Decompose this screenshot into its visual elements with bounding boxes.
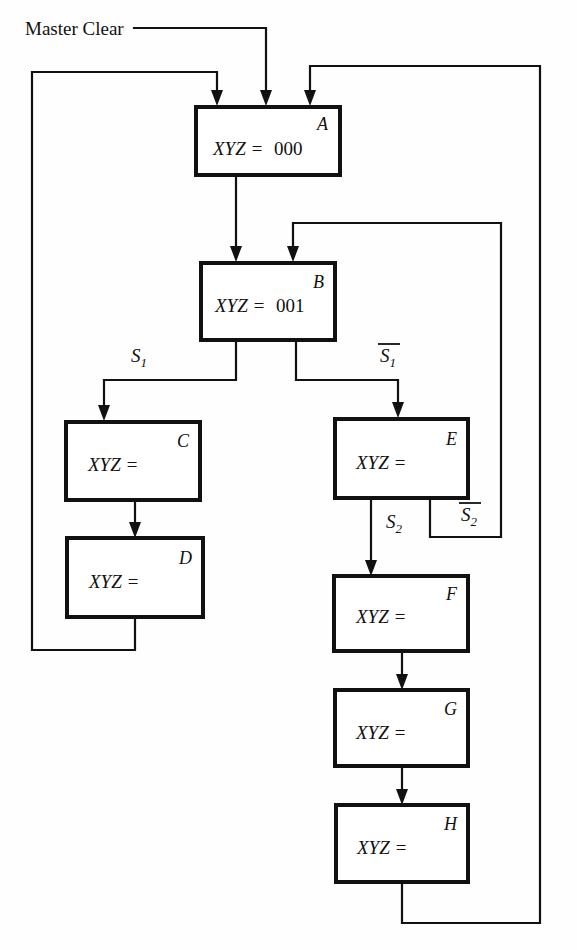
state-box-E-letter: E [445,429,457,449]
state-box-A-expr: XYZ = 000 [212,138,303,159]
arrowhead-e-to-f [365,560,377,576]
state-box-B-expr: XYZ = 001 [214,295,305,316]
state-box-D-expr: XYZ = [88,571,139,592]
state-box-F-expr: XYZ = [355,606,406,627]
signal-S2bar-base: S [461,504,471,525]
state-box-C-expr: XYZ = [87,454,138,475]
arrowhead-b-to-c [98,405,110,421]
arrowhead-a-to-b [230,246,242,262]
state-box-E-lhs: XYZ = [355,452,406,473]
signal-label-S2-text: S2 [386,511,403,536]
master-clear-label: Master Clear [25,18,124,39]
state-box-A-letter: A [316,114,329,134]
arrowhead-s2bar-feedback-to-b [287,246,299,262]
state-box-A-rhs: 000 [274,138,303,159]
state-box-B[interactable]: B XYZ = 001 [201,263,335,340]
signal-S2bar-sub: 2 [471,514,478,529]
state-box-D[interactable]: D XYZ = [67,538,203,617]
arrowhead-c-to-d [129,522,141,538]
signal-S2-sub: 2 [396,521,403,536]
signal-S2-base: S [386,511,396,532]
state-box-A[interactable]: A XYZ = 000 [196,107,340,175]
state-box-H-letter: H [443,814,458,834]
state-box-C-letter: C [177,431,190,451]
state-box-D-letter: D [178,548,192,568]
signal-label-S1-text: S1 [131,345,147,370]
state-box-A-lhs: XYZ = [212,138,263,159]
arrowhead-master-clear-to-a [260,90,272,106]
arrowhead-h-feedback-to-a [304,90,316,106]
state-box-F-letter: F [445,584,458,604]
state-box-H-lhs: XYZ = [356,837,407,858]
state-box-B-letter: B [313,272,324,292]
state-box-H[interactable]: H XYZ = [336,805,468,882]
state-box-B-lhs: XYZ = [214,295,265,316]
state-box-G-lhs: XYZ = [355,722,406,743]
signal-S1bar-base: S [380,345,390,366]
signal-S1-sub: 1 [141,355,148,370]
state-box-G-letter: G [444,699,457,719]
state-box-E[interactable]: E XYZ = [335,419,468,498]
signal-label-S2: S2 [386,511,403,536]
signal-label-S1bar: S1 [378,344,400,370]
state-box-F[interactable]: F XYZ = [334,576,468,651]
wire-b-to-c-s1 [104,340,236,411]
state-box-E-expr: XYZ = [355,452,406,473]
signal-label-S1bar-text: S1 [380,345,396,370]
state-diagram-canvas: A XYZ = 000 B XYZ = 001 C XYZ = [0,0,577,950]
signal-label-S1: S1 [131,345,147,370]
state-box-C-lhs: XYZ = [87,454,138,475]
signal-label-S2bar: S2 [459,503,481,529]
signal-S1bar-sub: 1 [390,355,397,370]
state-box-G-expr: XYZ = [355,722,406,743]
state-box-B-rhs: 001 [276,295,305,316]
state-box-F-lhs: XYZ = [355,606,406,627]
state-box-G[interactable]: G XYZ = [335,690,468,766]
signal-S1-base: S [131,345,141,366]
arrowhead-f-to-g [396,674,408,690]
state-box-C[interactable]: C XYZ = [66,422,200,500]
state-flow-diagram: A XYZ = 000 B XYZ = 001 C XYZ = [0,0,577,950]
arrowhead-g-to-h [396,789,408,805]
wire-master-clear [134,28,266,96]
arrowhead-b-to-e [392,402,404,418]
state-box-H-expr: XYZ = [356,837,407,858]
signal-label-S2bar-text: S2 [461,504,478,529]
arrowhead-d-feedback-to-a [211,90,223,106]
state-box-D-lhs: XYZ = [88,571,139,592]
